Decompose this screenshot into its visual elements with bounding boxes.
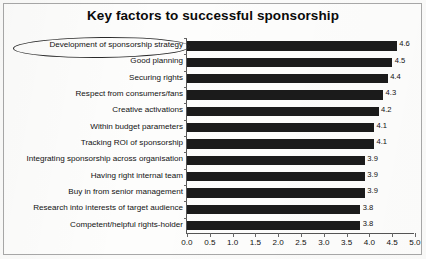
bar: [187, 156, 365, 165]
category-label: Tracking ROI of sponsorship: [81, 138, 183, 147]
x-axis-tick-label: 2.0: [273, 238, 284, 247]
x-axis-tick-label: 3.5: [341, 238, 352, 247]
bar-value-label: 4.5: [392, 56, 405, 65]
x-axis-tick: [278, 233, 279, 237]
x-axis-tick-label: 1.5: [250, 238, 261, 247]
category-label: Buy in from senior management: [68, 187, 183, 196]
bar-value-label: 4.3: [383, 88, 396, 97]
chart-title: Key factors to successful sponsorship: [0, 8, 426, 23]
x-axis-tick-label: 0.5: [204, 238, 215, 247]
bar: [187, 90, 383, 99]
x-axis-tick: [210, 233, 211, 237]
x-axis-tick: [392, 233, 393, 237]
bar-value-label: 3.9: [365, 186, 378, 195]
bar: [187, 107, 379, 116]
category-label: Having right internal team: [91, 171, 183, 180]
x-axis-tick: [301, 233, 302, 237]
bar-value-label: 4.2: [379, 105, 392, 114]
bar-row: Integrating sponsorship across organisat…: [187, 152, 414, 168]
bar-value-label: 4.4: [388, 72, 401, 81]
y-axis-tick: [184, 38, 187, 39]
bar: [187, 221, 360, 230]
bar-row: Within budget parameters4.1: [187, 120, 414, 136]
category-label: Integrating sponsorship across organisat…: [26, 154, 183, 163]
bar-value-label: 3.8: [360, 219, 373, 228]
bar-row: Having right internal team3.9: [187, 169, 414, 185]
x-axis-tick: [233, 233, 234, 237]
x-axis-tick-label: 5.0: [409, 238, 420, 247]
y-axis-tick: [184, 169, 187, 170]
y-axis-tick: [184, 185, 187, 186]
y-axis-tick: [184, 201, 187, 202]
category-label: Respect from consumers/fans: [75, 89, 183, 98]
category-label: Within budget parameters: [90, 122, 183, 131]
y-axis-tick: [184, 120, 187, 121]
y-axis-tick: [184, 54, 187, 55]
y-axis-tick: [184, 152, 187, 153]
x-axis-tick: [324, 233, 325, 237]
bar-value-label: 4.1: [374, 137, 387, 146]
category-label: Securing rights: [129, 73, 183, 82]
bar: [187, 41, 397, 50]
bar-value-label: 3.8: [360, 203, 373, 212]
x-axis-tick: [187, 233, 188, 237]
category-label: Creative activations: [112, 105, 183, 114]
bar-row: Respect from consumers/fans4.3: [187, 87, 414, 103]
category-label: Research into interests of target audien…: [33, 203, 183, 212]
bar-row: Research into interests of target audien…: [187, 201, 414, 217]
bar-row: Tracking ROI of sponsorship4.1: [187, 136, 414, 152]
bar-row: Creative activations4.2: [187, 103, 414, 119]
bar: [187, 123, 374, 132]
bar-row: Buy in from senior management3.9: [187, 185, 414, 201]
bar-value-label: 4.6: [397, 39, 410, 48]
bar-row: Development of sponsorship strategy4.6: [187, 38, 414, 54]
x-axis-tick-label: 0.0: [181, 238, 192, 247]
x-axis-tick-label: 2.5: [295, 238, 306, 247]
bar: [187, 172, 365, 181]
y-axis-tick: [184, 103, 187, 104]
x-axis-tick: [415, 233, 416, 237]
y-axis-tick: [184, 136, 187, 137]
bar: [187, 205, 360, 214]
bar-row: Good planning4.5: [187, 54, 414, 70]
bar-value-label: 3.9: [365, 154, 378, 163]
bar: [187, 188, 365, 197]
bar-row: Securing rights4.4: [187, 71, 414, 87]
x-axis-tick-label: 1.0: [227, 238, 238, 247]
y-axis-tick: [184, 71, 187, 72]
bar-row: Competent/helpful rights-holder3.8: [187, 218, 414, 234]
x-axis-tick-label: 4.0: [364, 238, 375, 247]
y-axis-tick: [184, 218, 187, 219]
x-axis-tick: [255, 233, 256, 237]
chart-screenshot: Key factors to successful sponsorship De…: [0, 0, 426, 259]
category-label: Competent/helpful rights-holder: [70, 220, 183, 229]
bar: [187, 58, 392, 67]
category-label: Good planning: [130, 56, 183, 65]
bar: [187, 139, 374, 148]
bar-value-label: 4.1: [374, 121, 387, 130]
x-axis-tick: [347, 233, 348, 237]
category-label: Development of sponsorship strategy: [49, 40, 183, 49]
x-axis-tick-label: 3.0: [318, 238, 329, 247]
plot-area: Development of sponsorship strategy4.6Go…: [186, 38, 414, 234]
x-axis-tick: [369, 233, 370, 237]
bar: [187, 74, 388, 83]
x-axis-tick-label: 4.5: [387, 238, 398, 247]
bar-value-label: 3.9: [365, 170, 378, 179]
y-axis-tick: [184, 87, 187, 88]
